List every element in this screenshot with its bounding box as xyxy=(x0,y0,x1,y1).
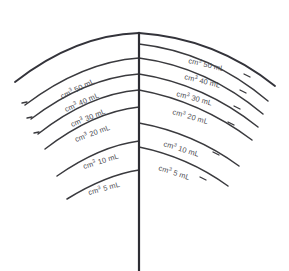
dash-right-40 xyxy=(240,90,246,93)
right-label-30ml: cm3 30 mL xyxy=(175,88,213,107)
left-arc-group xyxy=(15,33,139,199)
volume-scale-diagram: cm3 50 mLcm3 40 mLcm3 30 mLcm3 20 mLcm3 … xyxy=(0,0,289,271)
arc-right-10 xyxy=(139,123,239,166)
left-label-5ml: cm3 5 mL xyxy=(87,179,121,197)
right-label-5ml: cm3 5 mL xyxy=(157,162,191,182)
dash-right-5 xyxy=(200,177,206,180)
right-label-50ml: cm3 50 mL xyxy=(188,55,226,73)
diagram-canvas: cm3 50 mLcm3 40 mLcm3 30 mLcm3 20 mLcm3 … xyxy=(0,0,289,271)
left-label-10ml: cm3 10 mL xyxy=(82,151,120,171)
right-label-20ml: cm3 20 mL xyxy=(171,106,209,126)
right-label-group: cm3 50 mLcm3 40 mLcm3 30 mLcm3 20 mLcm3 … xyxy=(157,55,225,182)
left-label-group: cm3 50 mLcm3 40 mLcm3 30 mLcm3 20 mLcm3 … xyxy=(58,76,120,197)
dash-right-30 xyxy=(234,106,240,109)
dash-left-30 xyxy=(34,132,39,133)
dash-left-40 xyxy=(27,117,32,118)
dash-right-50 xyxy=(244,74,250,77)
dash-left-50 xyxy=(22,102,27,103)
